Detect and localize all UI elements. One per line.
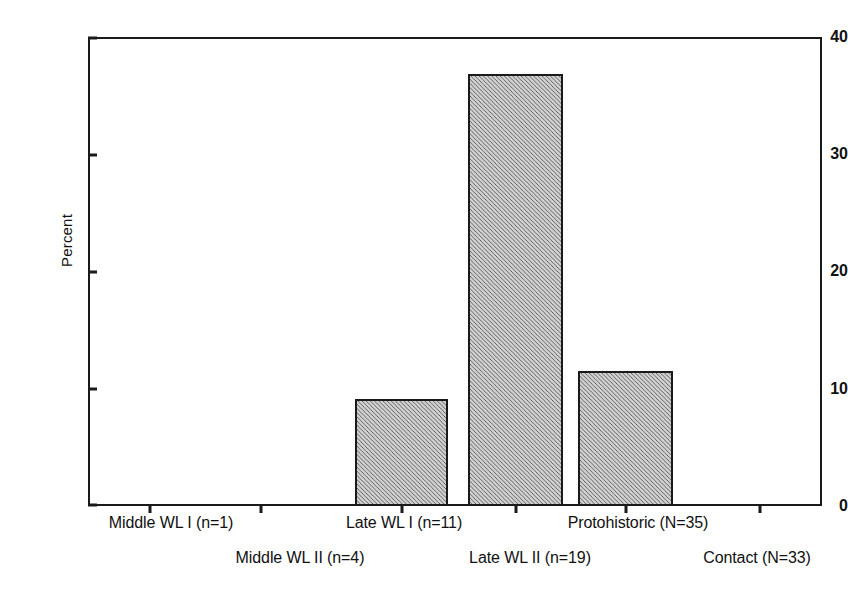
plot-area-frame xyxy=(88,37,822,506)
y-axis-title: Percent xyxy=(58,171,75,311)
y-tick-mark-40 xyxy=(88,37,97,40)
y-tick-mark-20 xyxy=(88,271,97,274)
x-label-late-wl-ii: Late WL II (n=19) xyxy=(469,549,591,567)
y-tick-label-40: 40 xyxy=(804,28,848,46)
x-label-middle-wl-i: Middle WL I (n=1) xyxy=(109,514,233,532)
y-tick-label-20: 20 xyxy=(804,262,848,280)
x-label-contact: Contact (N=33) xyxy=(703,549,811,567)
x-tick-mark-2 xyxy=(260,506,263,513)
x-label-protohistoric: Protohistoric (N=35) xyxy=(568,514,709,532)
y-tick-label-10: 10 xyxy=(804,380,848,398)
bar-late-wl-i xyxy=(355,399,448,506)
x-label-middle-wl-ii: Middle WL II (n=4) xyxy=(236,549,365,567)
x-tick-mark-3 xyxy=(401,506,404,513)
x-tick-mark-5 xyxy=(625,506,628,513)
x-label-late-wl-i: Late WL I (n=11) xyxy=(346,514,462,532)
y-tick-label-0: 0 xyxy=(804,497,848,515)
y-tick-mark-10 xyxy=(88,388,97,391)
x-tick-mark-6 xyxy=(759,506,762,513)
bar-late-wl-ii xyxy=(468,74,563,506)
x-tick-mark-1 xyxy=(149,506,152,513)
y-tick-label-30: 30 xyxy=(804,145,848,163)
y-tick-mark-30 xyxy=(88,154,97,157)
bar-chart-figure: Percent 40 30 20 10 0 Middle WL I (n=1) … xyxy=(0,0,848,609)
x-tick-mark-4 xyxy=(515,506,518,513)
bar-protohistoric xyxy=(578,371,673,506)
y-tick-mark-0 xyxy=(88,504,97,507)
